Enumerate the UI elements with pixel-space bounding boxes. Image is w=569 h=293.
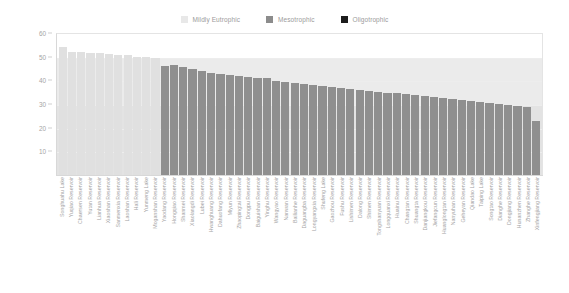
- x-tick-label: Daguangba Reservoir: [301, 177, 307, 228]
- bar: [485, 103, 493, 175]
- y-tick-mark: [48, 151, 52, 152]
- x-tick-label: Yinghu Reservoir: [264, 177, 270, 217]
- bar: [198, 71, 206, 175]
- x-label-cell: Baiguishan Reservoir: [253, 177, 261, 289]
- x-tick-label: Hunanzhen Reservoir: [516, 177, 522, 228]
- x-tick-label: Zhaopingtai Reservoir: [236, 177, 242, 229]
- x-label-cell: Fushu Reservoir: [337, 177, 345, 289]
- legend-label-mesotrophic: Mesotrophic: [278, 16, 315, 23]
- x-label-cell: Xiaoshan Reservoir: [104, 177, 112, 289]
- bar: [235, 76, 243, 175]
- legend-swatch-mesotrophic: [266, 16, 273, 23]
- x-label-cell: Longyangxia Reservoir: [309, 177, 317, 289]
- x-label-cell: Bailianhe Reservoir: [291, 177, 299, 289]
- x-tick-label: Qiandao Lake: [469, 177, 475, 210]
- x-axis-line: [56, 175, 543, 176]
- x-label-cell: Longquanxi Reservoir: [384, 177, 392, 289]
- x-tick-label: Longquanxi Reservoir: [385, 177, 391, 228]
- bar: [467, 101, 475, 175]
- bar: [513, 106, 521, 175]
- bar: [504, 105, 512, 175]
- y-tick-mark: [48, 56, 52, 57]
- bar: [328, 87, 336, 175]
- x-tick-label: Tongshanyuan Reservoir: [376, 177, 382, 235]
- bar: [291, 83, 299, 175]
- legend-label-oligotrophic: Oligotrophic: [353, 16, 389, 23]
- x-tick-label: Dahuofang Reservoir: [217, 177, 223, 227]
- bar: [272, 81, 280, 175]
- bar: [142, 57, 150, 175]
- x-label-cell: Yuqiao Reservoir: [67, 177, 75, 289]
- bar: [170, 65, 178, 175]
- chart-legend: Mildly Eutrophic Mesotrophic Oligotrophi…: [0, 12, 569, 26]
- x-tick-label: Yunmeng Lake: [143, 177, 149, 212]
- x-label-cell: Yunmeng Lake: [142, 177, 150, 289]
- x-label-cell: Sanmenxia Reservoir: [114, 177, 122, 289]
- bar: [244, 77, 252, 175]
- x-tick-label: Xinfengjiang Reservoir: [534, 177, 540, 230]
- x-label-cell: Dalong Reservoir: [356, 177, 364, 289]
- bar: [68, 52, 76, 175]
- x-tick-label: Huainu Reservoir: [394, 177, 400, 218]
- x-label-cell: Hongqiao Reservoir: [169, 177, 177, 289]
- x-tick-label: Fushu Reservoir: [339, 177, 345, 216]
- x-tick-label: Longyangxia Reservoir: [311, 177, 317, 231]
- bar: [253, 78, 261, 176]
- x-tick-label: Nanwan Reservoir: [283, 177, 289, 220]
- x-label-cell: Danjiangkou Reservoir: [421, 177, 429, 289]
- chart-container: Mildly Eutrophic Mesotrophic Oligotrophi…: [0, 0, 569, 293]
- x-label-cell: Songtao Reservoir: [487, 177, 495, 289]
- x-tick-label: Baiguishan Reservoir: [255, 177, 261, 227]
- bar: [439, 98, 447, 175]
- bar: [346, 89, 354, 175]
- x-label-cell: Zhanghe Reservoir: [524, 177, 532, 289]
- x-tick-label: Geheyan Reservoir: [460, 177, 466, 223]
- legend-swatch-mildly-eutrophic: [181, 16, 188, 23]
- x-tick-label: Yuqiao Reservoir: [68, 177, 74, 217]
- bar: [86, 53, 94, 175]
- bar: [188, 69, 196, 175]
- y-tick-label: 50: [6, 53, 46, 60]
- bar: [263, 78, 271, 175]
- bar: [411, 95, 419, 175]
- x-tick-label: Yaodang Reservoir: [161, 177, 167, 222]
- x-label-cell: Huanglongtan Reservoir: [440, 177, 448, 289]
- x-label-cell: Lubei Reservoir: [197, 177, 205, 289]
- x-label-cell: Gaozhou Reservoir: [328, 177, 336, 289]
- y-tick-mark: [48, 127, 52, 128]
- bar: [216, 74, 224, 175]
- x-tick-label: Lishimen Reservoir: [348, 177, 354, 222]
- x-tick-label: Shanmei Reservoir: [180, 177, 186, 222]
- x-label-cell: Songhuahu Lake: [58, 177, 66, 289]
- y-tick-mark: [48, 33, 52, 34]
- legend-swatch-oligotrophic: [341, 16, 348, 23]
- x-label-cell: Qiandao Lake: [468, 177, 476, 289]
- x-tick-label: Huanglongtan Reservoir: [441, 177, 447, 234]
- x-label-cell: Yinghu Reservoir: [263, 177, 271, 289]
- x-label-cell: Shanmei Reservoir: [179, 177, 187, 289]
- x-label-cell: Lianhua Reservoir: [95, 177, 103, 289]
- x-tick-label: Taiping Lake: [478, 177, 484, 207]
- x-label-cell: Laoshan Reservoir: [123, 177, 131, 289]
- bar: [476, 102, 484, 175]
- bar: [365, 91, 373, 175]
- x-label-cell: Dongpu Reservoir: [244, 177, 252, 289]
- x-tick-label: Dongpu Reservoir: [245, 177, 251, 220]
- x-tick-label: Moganshan Reservoir: [152, 177, 158, 229]
- bar: [96, 53, 104, 175]
- y-tick-label: 40: [6, 77, 46, 84]
- x-label-cell: Miyun Reservoir: [225, 177, 233, 289]
- plot-area: [56, 33, 543, 175]
- x-label-cell: Nanyuhan Reservoir: [449, 177, 457, 289]
- bar: [430, 97, 438, 175]
- x-label-cell: Xinfengjiang Reservoir: [533, 177, 541, 289]
- x-tick-label: Gaozhou Reservoir: [329, 177, 335, 223]
- legend-item-mesotrophic: Mesotrophic: [266, 16, 315, 23]
- bar: [402, 94, 410, 175]
- x-label-cell: Yaodang Reservoir: [160, 177, 168, 289]
- y-tick-label: 10: [6, 148, 46, 155]
- bar: [383, 93, 391, 175]
- x-label-cell: Shimen Reservoir: [365, 177, 373, 289]
- y-tick-label: 30: [6, 101, 46, 108]
- bar: [151, 58, 159, 175]
